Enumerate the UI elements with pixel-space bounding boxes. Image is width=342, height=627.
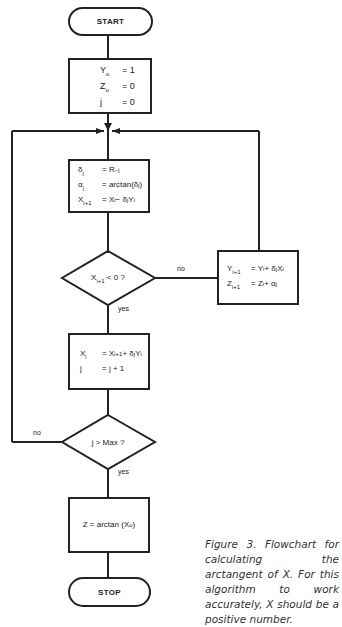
decision-j-max: j > Max ?: [92, 438, 125, 447]
compute-line-delta: δj= R−j: [78, 164, 120, 179]
decision1-no-label: no: [177, 265, 185, 272]
init-line-z0: Zo= 0: [100, 80, 135, 96]
figure-caption: Figure 3. Flowchart for calculating the …: [205, 537, 339, 627]
init-line-j: j= 0: [100, 96, 135, 108]
init-line-y0: Yo= 1: [100, 64, 135, 80]
result-line: Z = arctan (Xo): [83, 519, 135, 531]
init-box: Yo= 1 Zo= 0 j= 0: [68, 58, 152, 114]
update-line-y: Yi+1= Yi + δjXi: [227, 263, 284, 278]
compute-line-x: Xi+1= Xi − δjYi: [78, 194, 135, 209]
stop-terminator: STOP: [68, 577, 151, 607]
update-yz-box: Yi+1= Yi + δjXi Zi+1= Zi + αj: [217, 250, 299, 305]
decision2-yes-label: yes: [118, 468, 129, 475]
start-terminator: START: [68, 7, 153, 36]
decision1-yes-label: yes: [118, 305, 129, 312]
decision2-no-label: no: [33, 429, 41, 436]
update-line-j: j= j + 1: [80, 363, 124, 375]
stop-label: STOP: [98, 588, 121, 597]
update-line-x: Xi= Xi+1 + δjYi: [80, 348, 142, 363]
compute-line-alpha: αj= arctan(δj): [78, 179, 142, 194]
result-box: Z = arctan (Xo): [68, 497, 150, 553]
update-x-box: Xi= Xi+1 + δjYi j= j + 1: [68, 333, 150, 390]
start-label: START: [97, 17, 125, 26]
update-line-z: Zi+1= Zi + αj: [227, 278, 277, 293]
compute-box: δj= R−j αj= arctan(δj) Xi+1= Xi − δjYi: [68, 159, 150, 213]
decision-x-negative: Xi+1 < 0 ?: [91, 273, 125, 284]
